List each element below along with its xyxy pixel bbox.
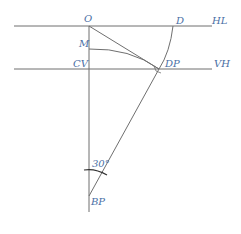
label-angle-30: 30°: [92, 158, 110, 169]
label-o: O: [84, 13, 92, 24]
perspective-diagram: O D HL M CV DP VH 30° BP: [0, 0, 241, 234]
label-m: M: [78, 38, 90, 49]
label-d: D: [175, 15, 184, 26]
diagram-svg: O D HL M CV DP VH 30° BP: [0, 0, 241, 234]
label-bp: BP: [90, 196, 105, 207]
label-vh: VH: [214, 58, 230, 69]
label-dp: DP: [164, 58, 180, 69]
label-cv: CV: [73, 58, 90, 69]
label-hl: HL: [211, 15, 228, 26]
arc-m-dp: [89, 49, 159, 69]
line-bp-dp: [89, 69, 159, 196]
